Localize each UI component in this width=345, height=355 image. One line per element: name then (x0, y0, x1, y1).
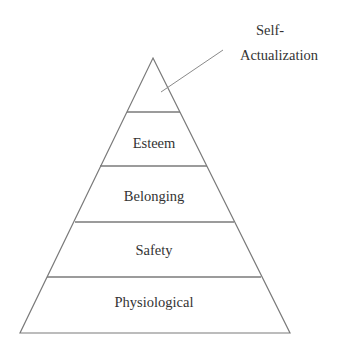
level-label-physiological: Physiological (115, 294, 194, 310)
level-label-esteem: Esteem (133, 135, 176, 151)
callout-label-line1: Self- (256, 22, 284, 38)
callout-label-line2: Actualization (240, 47, 319, 63)
level-label-safety: Safety (135, 242, 173, 258)
callout-leader-line (161, 50, 223, 92)
level-label-belonging: Belonging (124, 188, 184, 204)
pyramid-diagram: Esteem Belonging Safety Physiological Se… (0, 0, 345, 355)
